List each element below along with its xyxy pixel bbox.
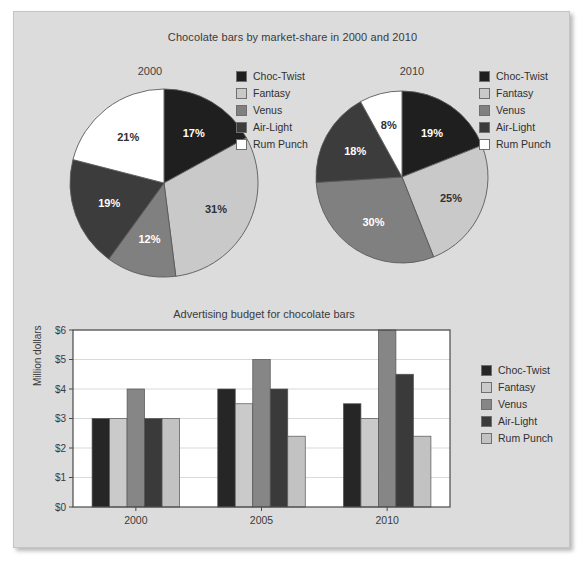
bar-chart-title: Advertising budget for chocolate bars bbox=[14, 308, 514, 320]
bar-2005-air-light[interactable] bbox=[270, 389, 288, 507]
y-tick-label: $5 bbox=[55, 354, 67, 365]
pie-2010-svg: 19%25%30%18%8% bbox=[314, 89, 490, 265]
legend-swatch-icon bbox=[479, 122, 490, 133]
legend-swatch-icon bbox=[479, 105, 490, 116]
legend-swatch-icon bbox=[481, 416, 492, 427]
legend-item-label: Venus bbox=[496, 105, 525, 116]
bar-2010-choc-twist[interactable] bbox=[343, 404, 361, 507]
legend-item-label: Rum Punch bbox=[498, 433, 553, 444]
legend-swatch-icon bbox=[236, 105, 247, 116]
bar-2005-choc-twist[interactable] bbox=[218, 389, 236, 507]
x-tick-label-2000: 2000 bbox=[124, 514, 148, 526]
bar-2010-air-light[interactable] bbox=[396, 374, 414, 507]
bar-legend-item-4[interactable]: Rum Punch bbox=[481, 430, 553, 447]
legend-item-label: Venus bbox=[253, 105, 282, 116]
x-tick-label-2005: 2005 bbox=[250, 514, 274, 526]
pie-slice-label-air-light: 18% bbox=[344, 145, 366, 157]
legend-swatch-icon bbox=[481, 365, 492, 376]
pie-2000-title: 2000 bbox=[45, 65, 255, 77]
legend-swatch-icon bbox=[479, 88, 490, 99]
legend-swatch-icon bbox=[481, 382, 492, 393]
legend-swatch-icon bbox=[236, 122, 247, 133]
legend-item-label: Venus bbox=[498, 399, 527, 410]
bar-2000-rum punch[interactable] bbox=[162, 419, 180, 508]
x-tick-label-2010: 2010 bbox=[375, 514, 399, 526]
pie-slice-label-rum punch: 21% bbox=[117, 131, 139, 143]
legend-swatch-icon bbox=[481, 399, 492, 410]
pie-slice-label-rum punch: 8% bbox=[381, 119, 397, 131]
bar-2010-rum punch[interactable] bbox=[413, 436, 431, 507]
legend-item-label: Fantasy bbox=[498, 382, 535, 393]
legend-item-label: Air-Light bbox=[253, 122, 292, 133]
bar-2000-fantasy[interactable] bbox=[110, 419, 128, 508]
pie-slice-label-venus: 30% bbox=[362, 216, 384, 228]
legend-swatch-icon bbox=[481, 433, 492, 444]
legend-swatch-icon bbox=[236, 71, 247, 82]
bar-2000-venus[interactable] bbox=[127, 389, 145, 507]
pie-slice-label-venus: 12% bbox=[138, 233, 160, 245]
bar-2005-rum punch[interactable] bbox=[288, 436, 306, 507]
legend-item-label: Air-Light bbox=[498, 416, 537, 427]
figure-panel: Chocolate bars by market-share in 2000 a… bbox=[13, 11, 570, 548]
legend-item-label: Fantasy bbox=[253, 88, 290, 99]
legend-item-label: Fantasy bbox=[496, 88, 533, 99]
bar-legend-item-2[interactable]: Venus bbox=[481, 396, 553, 413]
pie-chart-2010: 2010 19%25%30%18%8% bbox=[290, 60, 500, 300]
pie-2010-legend-item-2[interactable]: Venus bbox=[479, 102, 551, 119]
legend-item-label: Air-Light bbox=[496, 122, 535, 133]
pie-slice-label-air-light: 19% bbox=[98, 197, 120, 209]
bar-legend-item-0[interactable]: Choc-Twist bbox=[481, 362, 553, 379]
bar-legend-item-1[interactable]: Fantasy bbox=[481, 379, 553, 396]
pie-2010-legend-item-4[interactable]: Rum Punch bbox=[479, 136, 551, 153]
bar-chart: Million dollars $0$1$2$3$4$5$62000200520… bbox=[40, 324, 470, 539]
bar-chart-svg: $0$1$2$3$4$5$6200020052010 bbox=[40, 324, 470, 539]
bar-chart-legend: Choc-TwistFantasyVenusAir-LightRum Punch bbox=[481, 362, 553, 447]
bar-2000-choc-twist[interactable] bbox=[92, 419, 110, 508]
y-tick-label: $6 bbox=[55, 325, 67, 336]
y-tick-label: $3 bbox=[55, 413, 67, 424]
bar-2005-venus[interactable] bbox=[253, 360, 271, 508]
legend-swatch-icon bbox=[479, 71, 490, 82]
figure-root: Chocolate bars by market-share in 2000 a… bbox=[0, 0, 586, 562]
bar-chart-ylabel: Million dollars bbox=[32, 325, 43, 386]
pie-slice-label-choc-twist: 19% bbox=[421, 127, 443, 139]
legend-item-label: Choc-Twist bbox=[498, 365, 550, 376]
pie-section-title: Chocolate bars by market-share in 2000 a… bbox=[14, 31, 571, 43]
y-tick-label: $4 bbox=[55, 384, 67, 395]
bar-legend-item-3[interactable]: Air-Light bbox=[481, 413, 553, 430]
legend-swatch-icon bbox=[236, 88, 247, 99]
y-tick-label: $1 bbox=[55, 472, 67, 483]
legend-swatch-icon bbox=[479, 139, 490, 150]
y-tick-label: $0 bbox=[55, 502, 67, 513]
pie-2010-legend-item-1[interactable]: Fantasy bbox=[479, 85, 551, 102]
legend-item-label: Rum Punch bbox=[496, 139, 551, 150]
bar-2010-fantasy[interactable] bbox=[361, 419, 379, 508]
legend-item-label: Choc-Twist bbox=[496, 71, 548, 82]
legend-swatch-icon bbox=[236, 139, 247, 150]
bar-2005-fantasy[interactable] bbox=[235, 404, 253, 507]
pie-slice-label-fantasy: 31% bbox=[205, 203, 227, 215]
pie-2010-legend: Choc-TwistFantasyVenusAir-LightRum Punch bbox=[479, 68, 551, 153]
pie-slice-label-choc-twist: 17% bbox=[183, 127, 205, 139]
pie-2000-svg: 17%31%12%19%21% bbox=[68, 87, 260, 279]
y-tick-label: $2 bbox=[55, 443, 67, 454]
pie-2010-legend-item-3[interactable]: Air-Light bbox=[479, 119, 551, 136]
pie-slice-label-fantasy: 25% bbox=[440, 192, 462, 204]
pie-2010-legend-item-0[interactable]: Choc-Twist bbox=[479, 68, 551, 85]
bar-2010-venus[interactable] bbox=[378, 330, 396, 507]
bar-2000-air-light[interactable] bbox=[145, 419, 163, 508]
